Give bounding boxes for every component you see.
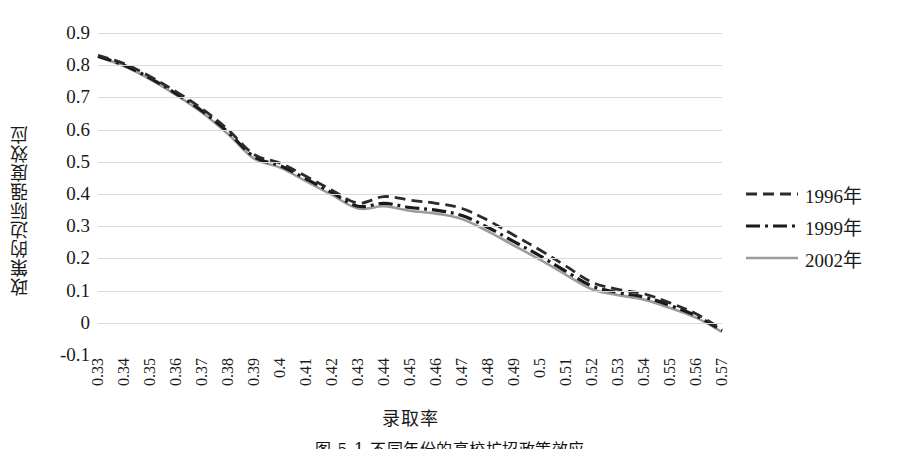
y-axis-tick-labels: 0.90.80.70.60.50.40.30.20.10-0.1 [30,0,94,400]
gridline [98,33,722,34]
legend-label: 1996年 [805,181,862,208]
legend-item[interactable]: 2002年 [746,242,896,274]
x-tick-label: 0.5 [530,358,550,404]
x-tick-label-text: 0.4 [271,358,289,378]
x-tick-label-text: 0.52 [583,358,601,386]
x-tick-label-text: 0.38 [219,358,237,386]
x-tick-label-text: 0.45 [401,358,419,386]
x-tick-label-text: 0.36 [167,358,185,386]
plot-area [98,33,722,355]
y-tick-label: 0.7 [66,86,90,108]
legend-label: 2002年 [805,245,862,272]
x-tick-label: 0.42 [322,358,342,404]
y-tick-label: 0.3 [66,215,90,237]
y-tick-label: 0.4 [66,183,90,205]
chart-figure: 政策的边际强度效应 0.90.80.70.60.50.40.30.20.10-0… [0,0,900,449]
y-tick-label: 0.1 [66,280,90,302]
x-tick-label-text: 0.53 [609,358,627,386]
legend-swatch-2002年 [746,251,798,265]
y-tick-label: -0.1 [60,344,90,366]
x-tick-label-text: 0.49 [505,358,523,386]
legend-swatch-1999年 [746,219,798,233]
gridline [98,130,722,131]
x-tick-label: 0.54 [634,358,654,404]
gridline [98,226,722,227]
x-tick-label-text: 0.35 [141,358,159,386]
gridline [98,162,722,163]
x-tick-label: 0.45 [400,358,420,404]
x-tick-label-text: 0.56 [687,358,705,386]
y-tick-label: 0 [81,312,91,334]
x-tick-label: 0.43 [348,358,368,404]
chart-legend: 1996年1999年2002年 [746,178,896,274]
gridline [98,291,722,292]
x-tick-label: 0.38 [218,358,238,404]
y-tick-label: 0.2 [66,247,90,269]
x-tick-label: 0.49 [504,358,524,404]
x-tick-label: 0.52 [582,358,602,404]
x-tick-label: 0.48 [478,358,498,404]
x-tick-label-text: 0.33 [89,358,107,386]
x-tick-label-text: 0.42 [323,358,341,386]
x-tick-label-text: 0.51 [557,358,575,386]
x-tick-label: 0.51 [556,358,576,404]
x-tick-label: 0.41 [296,358,316,404]
x-tick-label: 0.35 [140,358,160,404]
y-tick-label: 0.8 [66,54,90,76]
x-tick-label: 0.33 [88,358,108,404]
x-tick-label: 0.39 [244,358,264,404]
x-tick-label-text: 0.55 [661,358,679,386]
x-tick-label-text: 0.47 [453,358,471,386]
x-tick-label-text: 0.48 [479,358,497,386]
x-tick-label: 0.46 [426,358,446,404]
y-tick-label: 0.6 [66,119,90,141]
x-tick-label-text: 0.37 [193,358,211,386]
figure-caption: 图 5-1 不同年份的高校扩招政策效应 [0,436,900,449]
gridline [98,258,722,259]
y-tick-label: 0.5 [66,151,90,173]
x-tick-label: 0.34 [114,358,134,404]
x-tick-label: 0.36 [166,358,186,404]
x-tick-label-text: 0.46 [427,358,445,386]
x-tick-label: 0.57 [712,358,732,404]
legend-item[interactable]: 1999年 [746,210,896,242]
x-tick-label: 0.47 [452,358,472,404]
gridline [98,65,722,66]
legend-label: 1999年 [805,213,862,240]
series-line-1996年 [98,55,722,329]
x-tick-label-text: 0.39 [245,358,263,386]
x-tick-label-text: 0.54 [635,358,653,386]
x-tick-label: 0.53 [608,358,628,404]
x-tick-label: 0.56 [686,358,706,404]
legend-item[interactable]: 1996年 [746,178,896,210]
x-tick-label: 0.55 [660,358,680,404]
x-tick-label-text: 0.5 [531,358,549,378]
x-tick-label-text: 0.43 [349,358,367,386]
x-tick-label-text: 0.34 [115,358,133,386]
x-tick-label: 0.37 [192,358,212,404]
x-tick-label-text: 0.41 [297,358,315,386]
legend-swatch-1996年 [746,187,798,201]
x-axis-tick-labels: 0.330.340.350.360.370.380.390.40.410.420… [98,358,722,404]
x-axis-title: 录取率 [98,404,722,430]
x-tick-label-text: 0.57 [713,358,731,386]
x-tick-label: 0.44 [374,358,394,404]
gridline [98,323,722,324]
y-tick-label: 0.9 [66,22,90,44]
gridline [98,194,722,195]
x-tick-label: 0.4 [270,358,290,404]
gridline [98,97,722,98]
x-tick-label-text: 0.44 [375,358,393,386]
